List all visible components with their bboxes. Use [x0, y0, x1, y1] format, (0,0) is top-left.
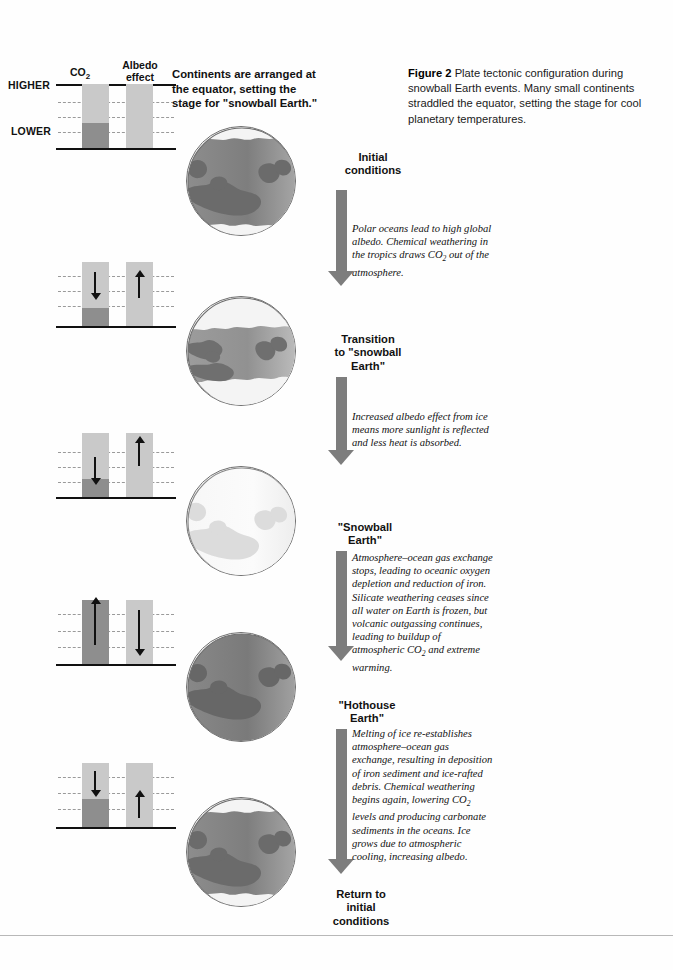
gridline [58, 117, 174, 118]
globe-snowball-art [187, 467, 296, 576]
gridline [58, 809, 174, 810]
stage-label-line: to "snowball [319, 346, 417, 359]
annotation-3: Atmosphere–ocean gas exchange stops, lea… [352, 551, 494, 674]
globe-initial-art [187, 127, 296, 236]
indicator-plot [56, 600, 176, 666]
stage-label-line: "Snowball [316, 521, 414, 534]
stage-label-line: conditions [312, 915, 410, 928]
stage-label-line: Initial [324, 151, 422, 164]
gridline [58, 467, 174, 468]
indicator-hothouse [56, 600, 176, 666]
co2-down-arrow-icon [89, 771, 102, 797]
higher-axis-label: HIGHER [8, 79, 50, 91]
gridline [58, 276, 174, 277]
indicator-return [56, 763, 176, 829]
co2-bar [82, 84, 109, 148]
globe-return-art [187, 798, 296, 907]
globe-initial [186, 126, 296, 236]
indicator-plot [56, 84, 176, 150]
indicator-initial [56, 84, 176, 150]
gridline [58, 647, 174, 648]
co2-bar-fill [82, 123, 109, 147]
globe-snowball [186, 466, 296, 576]
flow-arrow-3-icon [328, 551, 354, 661]
lower-axis-label: LOWER [11, 125, 51, 137]
stage-label-snowball: "Snowball Earth" [316, 521, 414, 548]
axis-bottom-rule [56, 148, 176, 151]
globe-hothouse-art [187, 633, 296, 742]
albedo-down-arrow-icon [133, 610, 146, 656]
albedo-bar [126, 84, 153, 148]
figure-caption-label: Figure 2 [408, 67, 452, 79]
gridline [58, 793, 174, 794]
albedo-header-line2: effect [110, 71, 170, 83]
stage-label-line: Return to [312, 888, 410, 901]
axis-bottom-rule [56, 827, 176, 830]
albedo-header: Albedo effect [110, 59, 170, 83]
axis-bottom-rule [56, 497, 176, 500]
stage-label-return: Return to initial conditions [312, 888, 410, 928]
co2-bar-fill [82, 799, 109, 827]
intro-text: Continents are arranged at the equator, … [172, 67, 318, 111]
stage-label-line: Transition [319, 333, 417, 346]
flow-arrow-2-icon [328, 377, 354, 465]
gridline [58, 777, 174, 778]
annotation-1: Polar oceans lead to high global albedo.… [352, 222, 494, 279]
stage-label-line: Earth" [318, 712, 416, 725]
stage-label-line: Earth" [319, 360, 417, 373]
indicator-transition [56, 262, 176, 328]
indicator-headers: CO2 Albedo effect [56, 58, 176, 86]
co2-header: CO2 [56, 66, 104, 83]
gridline [58, 102, 174, 103]
stage-label-line: initial [312, 901, 410, 914]
indicator-snowball [56, 433, 176, 499]
gridline [58, 306, 174, 307]
page-bottom-rule [0, 935, 673, 936]
globe-return [186, 797, 296, 907]
indicator-plot [56, 262, 176, 328]
figure-page: Figure 2 Plate tectonic configuration du… [0, 0, 673, 970]
axis-bottom-rule [56, 664, 176, 667]
stage-label-line: conditions [324, 164, 422, 177]
axis-bottom-rule [56, 326, 176, 329]
gridline [58, 452, 174, 453]
co2-up-arrow-icon [89, 597, 102, 645]
stage-label-initial: Initial conditions [324, 151, 422, 178]
co2-bar-fill [82, 308, 109, 325]
gridline [58, 482, 174, 483]
albedo-up-arrow-icon [133, 436, 146, 466]
stage-label-line: Earth" [316, 534, 414, 547]
annotation-4: Melting of ice re-establishes atmosphere… [352, 727, 494, 863]
indicator-plot [56, 763, 176, 829]
albedo-bar-track [126, 84, 153, 148]
gridline [58, 631, 174, 632]
stage-label-hothouse: "Hothouse Earth" [318, 699, 416, 726]
flow-arrow-4-icon [328, 729, 354, 874]
gridline [58, 291, 174, 292]
gridline [58, 614, 174, 615]
globe-transition [186, 296, 296, 406]
flow-arrow-1-icon [328, 190, 354, 286]
albedo-header-line1: Albedo [110, 59, 170, 71]
globe-transition-art [187, 297, 296, 406]
stage-label-transition: Transition to "snowball Earth" [319, 333, 417, 373]
figure-caption: Figure 2 Plate tectonic configuration du… [408, 66, 656, 127]
indicator-plot [56, 433, 176, 499]
globe-hothouse [186, 632, 296, 742]
co2-down-arrow-icon [89, 272, 102, 300]
stage-label-line: "Hothouse [318, 699, 416, 712]
gridline [58, 132, 174, 133]
albedo-up-arrow-icon [133, 790, 146, 818]
axis-top-rule [56, 84, 176, 86]
albedo-up-arrow-icon [133, 270, 146, 298]
annotation-2: Increased albedo effect from ice means m… [352, 410, 494, 450]
co2-down-arrow-icon [89, 457, 102, 485]
